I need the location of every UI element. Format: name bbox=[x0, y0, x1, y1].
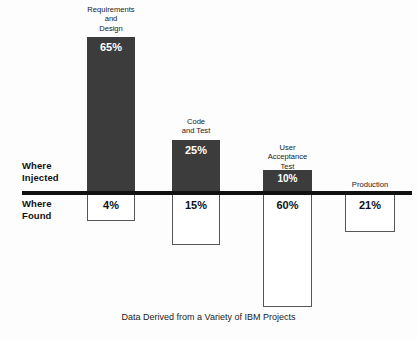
category-label-user-acceptance-test: User Acceptance Test bbox=[263, 143, 312, 171]
axis-label-where-found-line-2: Found bbox=[22, 210, 88, 222]
category-label-requirements-and-design: Requirements and Design bbox=[87, 5, 135, 33]
bar-value-found-requirements-and-design: 4% bbox=[88, 199, 134, 211]
column-production: Production 21% bbox=[345, 0, 395, 339]
category-label-line-2: Acceptance bbox=[263, 152, 312, 161]
category-label-production: Production bbox=[345, 180, 395, 189]
chart-caption: Data Derived from a Variety of IBM Proje… bbox=[0, 312, 417, 322]
axis-label-where-injected-line-1: Where bbox=[22, 160, 88, 172]
bar-found-production: 21% bbox=[345, 193, 395, 232]
category-label-line-3: Design bbox=[87, 24, 135, 33]
category-label-line-1: Code bbox=[172, 117, 220, 126]
category-label-line-2: and bbox=[87, 14, 135, 23]
bar-value-found-code-and-test: 15% bbox=[173, 199, 219, 211]
bar-value-injected-code-and-test: 25% bbox=[172, 144, 220, 156]
bar-found-code-and-test: 15% bbox=[172, 193, 220, 245]
column-code-and-test: Code and Test 25% 15% bbox=[172, 0, 220, 339]
bar-found-user-acceptance-test: 60% bbox=[263, 193, 312, 307]
category-label-line-2: and Test bbox=[172, 126, 220, 135]
axis-label-where-injected: WhereInjected bbox=[22, 160, 88, 183]
bar-value-injected-user-acceptance-test: 10% bbox=[263, 173, 312, 184]
category-label-line-1: User bbox=[263, 143, 312, 152]
bar-value-found-user-acceptance-test: 60% bbox=[264, 199, 311, 211]
category-label-line-1: Requirements bbox=[87, 5, 135, 14]
bar-value-found-production: 21% bbox=[346, 199, 394, 211]
axis-label-where-found-line-1: Where bbox=[22, 198, 88, 210]
axis-baseline bbox=[22, 191, 412, 195]
bar-value-injected-requirements-and-design: 65% bbox=[87, 41, 135, 53]
bar-injected-code-and-test: 25% bbox=[172, 140, 220, 193]
bar-found-requirements-and-design: 4% bbox=[87, 193, 135, 221]
category-label-line-1: Production bbox=[345, 180, 395, 189]
defect-injection-chart: WhereInjected WhereFound Requirements an… bbox=[0, 0, 417, 339]
axis-label-where-injected-line-2: Injected bbox=[22, 172, 88, 184]
axis-label-where-found: WhereFound bbox=[22, 198, 88, 221]
category-label-code-and-test: Code and Test bbox=[172, 117, 220, 136]
column-requirements-and-design: Requirements and Design 65% 4% bbox=[87, 0, 135, 339]
bar-injected-requirements-and-design: 65% bbox=[87, 37, 135, 193]
bar-injected-user-acceptance-test: 10% bbox=[263, 170, 312, 193]
column-user-acceptance-test: User Acceptance Test 10% 60% bbox=[263, 0, 312, 339]
